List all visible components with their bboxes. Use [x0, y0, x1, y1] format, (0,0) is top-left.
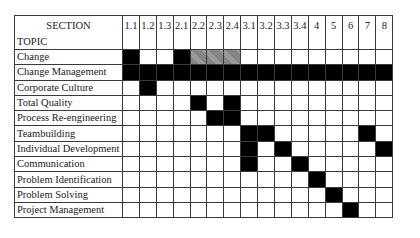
matrix-cell-empty	[224, 187, 241, 202]
matrix-cell-empty	[291, 80, 308, 95]
matrix-cell-empty	[308, 187, 325, 202]
section-header: 3.2	[258, 16, 275, 50]
matrix-cell-filled	[342, 202, 359, 217]
section-header: 2.4	[224, 16, 241, 50]
matrix-cell-empty	[156, 50, 173, 65]
matrix-cell-empty	[156, 111, 173, 126]
table-row: Total Quality	[15, 95, 393, 110]
matrix-cell-empty	[325, 172, 342, 187]
matrix-cell-empty	[123, 187, 140, 202]
matrix-cell-empty	[342, 95, 359, 110]
matrix-cell-empty	[342, 187, 359, 202]
section-header-label: SECTION	[15, 20, 122, 31]
matrix-cell-empty	[224, 80, 241, 95]
matrix-cell-empty	[359, 202, 376, 217]
matrix-cell-filled	[156, 65, 173, 80]
matrix-cell-empty	[139, 172, 156, 187]
matrix-cell-empty	[308, 111, 325, 126]
matrix-cell-empty	[258, 187, 275, 202]
matrix-cell-empty	[258, 95, 275, 110]
matrix-cell-empty	[275, 50, 292, 65]
matrix-cell-filled	[275, 65, 292, 80]
section-header: 2.1	[173, 16, 190, 50]
matrix-cell-filled	[123, 50, 140, 65]
matrix-cell-empty	[308, 141, 325, 156]
table-row: Corporate Culture	[15, 80, 393, 95]
topic-label: Individual Development	[15, 141, 123, 156]
matrix-cell-empty	[291, 111, 308, 126]
topic-label: Problem Identification	[15, 172, 123, 187]
topic-label: Process Re-engineering	[15, 111, 123, 126]
matrix-cell-empty	[376, 80, 393, 95]
matrix-cell-empty	[173, 126, 190, 141]
matrix-cell-empty	[342, 157, 359, 172]
matrix-cell-empty	[325, 95, 342, 110]
topic-label: Corporate Culture	[15, 80, 123, 95]
section-header: 3.4	[291, 16, 308, 50]
matrix-cell-empty	[275, 126, 292, 141]
matrix-cell-filled	[241, 157, 258, 172]
matrix-cell-empty	[359, 187, 376, 202]
matrix-cell-empty	[156, 157, 173, 172]
matrix-cell-empty	[139, 141, 156, 156]
matrix-cell-empty	[275, 80, 292, 95]
matrix-cell-empty	[190, 141, 207, 156]
table-row: Problem Solving	[15, 187, 393, 202]
section-header: 7	[359, 16, 376, 50]
matrix-cell-filled	[173, 65, 190, 80]
matrix-cell-empty	[291, 202, 308, 217]
matrix-cell-empty	[291, 95, 308, 110]
matrix-cell-filled	[123, 65, 140, 80]
matrix-cell-empty	[325, 80, 342, 95]
table-row: Individual Development	[15, 141, 393, 156]
matrix-cell-empty	[173, 111, 190, 126]
matrix-cell-empty	[342, 80, 359, 95]
matrix-cell-empty	[190, 187, 207, 202]
topic-label: Project Management	[15, 202, 123, 217]
matrix-cell-filled	[376, 65, 393, 80]
matrix-cell-filled	[258, 126, 275, 141]
matrix-cell-empty	[123, 141, 140, 156]
matrix-cell-empty	[275, 157, 292, 172]
section-header: 1.2	[139, 16, 156, 50]
matrix-cell-empty	[376, 202, 393, 217]
matrix-cell-empty	[139, 50, 156, 65]
matrix-cell-empty	[241, 50, 258, 65]
topic-label: Total Quality	[15, 95, 123, 110]
matrix-cell-filled	[342, 65, 359, 80]
topic-section-matrix: SECTION TOPIC 1.11.21.32.12.22.32.43.13.…	[14, 15, 393, 218]
matrix-cell-empty	[224, 202, 241, 217]
matrix-cell-hatched	[207, 50, 224, 65]
matrix-cell-hatched	[190, 50, 207, 65]
matrix-cell-filled	[359, 126, 376, 141]
topic-label: Change Management	[15, 65, 123, 80]
matrix-cell-filled	[291, 65, 308, 80]
matrix-cell-filled	[241, 126, 258, 141]
matrix-cell-empty	[275, 95, 292, 110]
matrix-cell-empty	[376, 50, 393, 65]
matrix-cell-empty	[275, 202, 292, 217]
matrix-cell-filled	[207, 111, 224, 126]
matrix-cell-filled	[308, 65, 325, 80]
matrix-cell-empty	[123, 111, 140, 126]
table-row: Change Management	[15, 65, 393, 80]
matrix-cell-empty	[258, 80, 275, 95]
matrix-cell-filled	[258, 65, 275, 80]
matrix-cell-filled	[207, 65, 224, 80]
matrix-body: ChangeChange ManagementCorporate Culture…	[15, 50, 393, 218]
topic-label: Teambuilding	[15, 126, 123, 141]
matrix-cell-filled	[224, 65, 241, 80]
matrix-cell-empty	[291, 126, 308, 141]
table-row: Teambuilding	[15, 126, 393, 141]
header-row: SECTION TOPIC 1.11.21.32.12.22.32.43.13.…	[15, 16, 393, 50]
matrix-cell-empty	[207, 202, 224, 217]
matrix-cell-empty	[325, 202, 342, 217]
matrix-cell-filled	[325, 187, 342, 202]
matrix-cell-empty	[139, 126, 156, 141]
matrix-cell-empty	[207, 95, 224, 110]
matrix-cell-empty	[207, 172, 224, 187]
matrix-cell-empty	[207, 80, 224, 95]
table-row: Process Re-engineering	[15, 111, 393, 126]
matrix-cell-empty	[241, 111, 258, 126]
matrix-cell-filled	[325, 65, 342, 80]
